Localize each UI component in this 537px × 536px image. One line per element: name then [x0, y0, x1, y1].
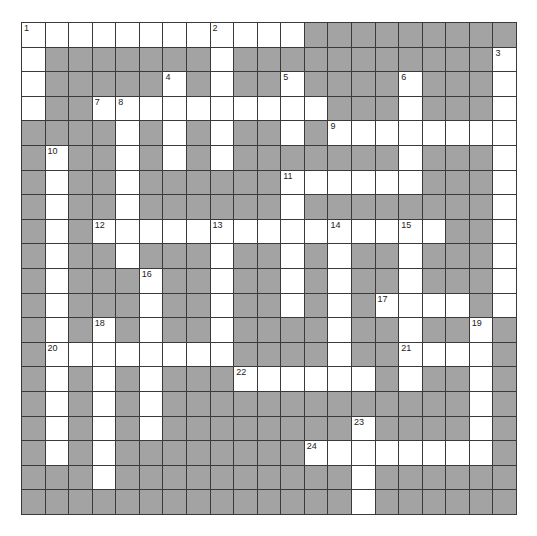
letter-cell[interactable]: 24 — [305, 441, 329, 466]
letter-cell[interactable] — [423, 343, 447, 368]
letter-cell[interactable]: 16 — [140, 269, 164, 294]
letter-cell[interactable] — [258, 97, 282, 122]
letter-cell[interactable]: 1 — [22, 23, 46, 48]
letter-cell[interactable]: 18 — [93, 318, 117, 343]
letter-cell[interactable] — [46, 269, 70, 294]
letter-cell[interactable]: 14 — [328, 220, 352, 245]
letter-cell[interactable]: 2 — [211, 23, 235, 48]
letter-cell[interactable] — [93, 417, 117, 442]
letter-cell[interactable] — [376, 441, 400, 466]
letter-cell[interactable] — [187, 343, 211, 368]
letter-cell[interactable] — [328, 367, 352, 392]
letter-cell[interactable] — [116, 171, 140, 196]
letter-cell[interactable] — [140, 417, 164, 442]
letter-cell[interactable] — [352, 441, 376, 466]
letter-cell[interactable] — [423, 220, 447, 245]
letter-cell[interactable] — [423, 121, 447, 146]
letter-cell[interactable] — [69, 343, 93, 368]
letter-cell[interactable] — [328, 269, 352, 294]
letter-cell[interactable] — [399, 121, 423, 146]
letter-cell[interactable] — [140, 367, 164, 392]
letter-cell[interactable]: 10 — [46, 146, 70, 171]
letter-cell[interactable] — [187, 220, 211, 245]
letter-cell[interactable] — [493, 97, 517, 122]
letter-cell[interactable] — [258, 367, 282, 392]
letter-cell[interactable] — [187, 23, 211, 48]
letter-cell[interactable] — [211, 97, 235, 122]
letter-cell[interactable]: 11 — [281, 171, 305, 196]
letter-cell[interactable] — [493, 121, 517, 146]
letter-cell[interactable] — [163, 97, 187, 122]
letter-cell[interactable] — [140, 318, 164, 343]
letter-cell[interactable] — [399, 318, 423, 343]
letter-cell[interactable] — [211, 294, 235, 319]
letter-cell[interactable] — [116, 343, 140, 368]
letter-cell[interactable]: 15 — [399, 220, 423, 245]
letter-cell[interactable]: 3 — [493, 48, 517, 73]
letter-cell[interactable]: 6 — [399, 72, 423, 97]
letter-cell[interactable] — [281, 97, 305, 122]
letter-cell[interactable] — [234, 23, 258, 48]
letter-cell[interactable] — [328, 294, 352, 319]
letter-cell[interactable]: 17 — [376, 294, 400, 319]
letter-cell[interactable] — [376, 220, 400, 245]
letter-cell[interactable] — [93, 392, 117, 417]
letter-cell[interactable] — [281, 121, 305, 146]
letter-cell[interactable] — [423, 294, 447, 319]
letter-cell[interactable] — [140, 220, 164, 245]
letter-cell[interactable] — [493, 195, 517, 220]
letter-cell[interactable] — [376, 171, 400, 196]
letter-cell[interactable] — [211, 146, 235, 171]
letter-cell[interactable]: 8 — [116, 97, 140, 122]
letter-cell[interactable] — [69, 23, 93, 48]
letter-cell[interactable] — [470, 441, 494, 466]
letter-cell[interactable] — [46, 195, 70, 220]
letter-cell[interactable] — [328, 171, 352, 196]
letter-cell[interactable] — [493, 146, 517, 171]
letter-cell[interactable] — [234, 220, 258, 245]
letter-cell[interactable] — [399, 294, 423, 319]
letter-cell[interactable] — [22, 72, 46, 97]
letter-cell[interactable] — [328, 318, 352, 343]
letter-cell[interactable]: 19 — [470, 318, 494, 343]
letter-cell[interactable] — [352, 490, 376, 515]
letter-cell[interactable] — [305, 171, 329, 196]
letter-cell[interactable] — [46, 417, 70, 442]
letter-cell[interactable] — [163, 220, 187, 245]
letter-cell[interactable] — [493, 171, 517, 196]
letter-cell[interactable] — [93, 23, 117, 48]
letter-cell[interactable] — [493, 72, 517, 97]
letter-cell[interactable] — [46, 23, 70, 48]
letter-cell[interactable] — [163, 121, 187, 146]
letter-cell[interactable]: 23 — [352, 417, 376, 442]
letter-cell[interactable] — [163, 23, 187, 48]
letter-cell[interactable] — [399, 367, 423, 392]
letter-cell[interactable] — [46, 441, 70, 466]
letter-cell[interactable] — [234, 97, 258, 122]
letter-cell[interactable] — [46, 171, 70, 196]
letter-cell[interactable] — [352, 171, 376, 196]
letter-cell[interactable]: 20 — [46, 343, 70, 368]
letter-cell[interactable]: 5 — [281, 72, 305, 97]
letter-cell[interactable] — [281, 294, 305, 319]
letter-cell[interactable] — [352, 220, 376, 245]
letter-cell[interactable] — [305, 220, 329, 245]
letter-cell[interactable] — [211, 244, 235, 269]
letter-cell[interactable] — [352, 466, 376, 491]
letter-cell[interactable] — [140, 392, 164, 417]
letter-cell[interactable] — [22, 97, 46, 122]
letter-cell[interactable] — [93, 466, 117, 491]
letter-cell[interactable] — [187, 97, 211, 122]
letter-cell[interactable] — [46, 244, 70, 269]
letter-cell[interactable] — [140, 294, 164, 319]
letter-cell[interactable] — [399, 269, 423, 294]
letter-cell[interactable] — [281, 220, 305, 245]
letter-cell[interactable] — [116, 146, 140, 171]
letter-cell[interactable]: 22 — [234, 367, 258, 392]
letter-cell[interactable] — [446, 294, 470, 319]
letter-cell[interactable] — [470, 367, 494, 392]
letter-cell[interactable] — [493, 244, 517, 269]
letter-cell[interactable] — [93, 343, 117, 368]
letter-cell[interactable] — [305, 367, 329, 392]
letter-cell[interactable] — [211, 269, 235, 294]
